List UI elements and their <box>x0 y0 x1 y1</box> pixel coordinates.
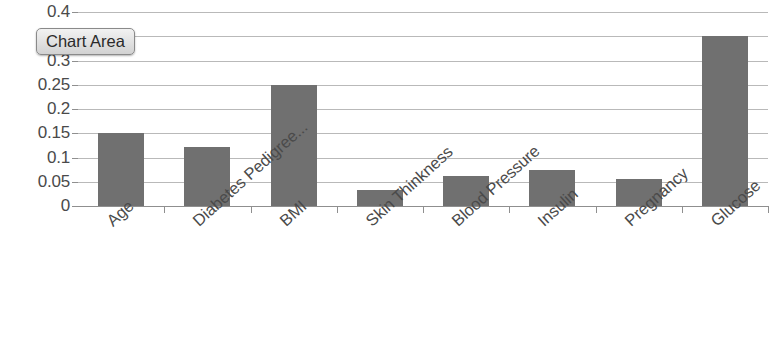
y-axis-tick <box>72 109 78 110</box>
y-axis-tick <box>72 206 78 207</box>
y-axis-tick-label: 0.1 <box>4 149 70 166</box>
x-axis-tick <box>164 206 165 213</box>
gridline <box>78 61 768 62</box>
bar[interactable] <box>702 36 748 206</box>
gridline <box>78 85 768 86</box>
x-axis-tick <box>509 206 510 213</box>
y-axis-tick-label: 0.2 <box>4 100 70 117</box>
x-axis-tick <box>768 206 769 213</box>
x-axis-tick <box>337 206 338 213</box>
y-axis-tick-label: 0.25 <box>4 76 70 93</box>
gridline <box>78 109 768 110</box>
chart-area-tooltip[interactable]: Chart Area <box>36 28 135 55</box>
y-axis-tick <box>72 158 78 159</box>
y-axis-tick-label: 0.05 <box>4 173 70 190</box>
x-axis-tick <box>596 206 597 213</box>
x-axis-ticks <box>78 206 768 214</box>
y-axis-tick-label: 0.4 <box>4 3 70 20</box>
gridline <box>78 133 768 134</box>
bar[interactable] <box>98 133 144 206</box>
y-axis-tick-label: 0 <box>4 197 70 214</box>
chart-area-tooltip-label: Chart Area <box>46 32 125 51</box>
gridline <box>78 12 768 13</box>
gridline <box>78 36 768 37</box>
y-axis-tick <box>72 85 78 86</box>
y-axis-tick <box>72 133 78 134</box>
x-axis-tick <box>251 206 252 213</box>
x-axis-tick <box>682 206 683 213</box>
x-axis-tick <box>423 206 424 213</box>
y-axis-tick <box>72 61 78 62</box>
y-axis-tick-label: 0.15 <box>4 124 70 141</box>
gridline <box>78 158 768 159</box>
y-axis-tick <box>72 12 78 13</box>
chart-container[interactable]: 00.050.10.150.20.250.30.350.4 AgeDiabete… <box>0 0 770 361</box>
y-axis-tick <box>72 182 78 183</box>
